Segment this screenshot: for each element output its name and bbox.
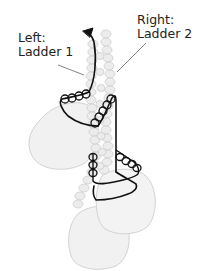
drop-bead-upper-left	[29, 103, 98, 170]
beading-diagram: Left: Ladder 1 Right: Ladder 2	[0, 0, 206, 271]
label-right-ladder-2: Right: Ladder 2	[137, 13, 192, 41]
label-right-line1: Right:	[137, 13, 192, 27]
leader-line-right	[117, 43, 146, 72]
label-left-line2: Ladder 1	[18, 45, 73, 59]
leader-line-left	[58, 65, 84, 75]
label-left-ladder-1: Left: Ladder 1	[18, 31, 73, 59]
label-right-line2: Ladder 2	[137, 27, 192, 41]
label-left-line1: Left:	[18, 31, 73, 45]
